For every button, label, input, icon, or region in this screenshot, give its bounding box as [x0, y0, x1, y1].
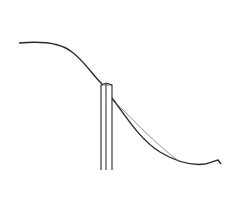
lower-thin-curve — [112, 100, 180, 162]
diagram-canvas — [0, 0, 242, 197]
upper-curve — [19, 42, 102, 84]
line-drawing — [0, 0, 242, 197]
lower-thick-curve — [112, 98, 221, 164]
post — [101, 83, 112, 170]
